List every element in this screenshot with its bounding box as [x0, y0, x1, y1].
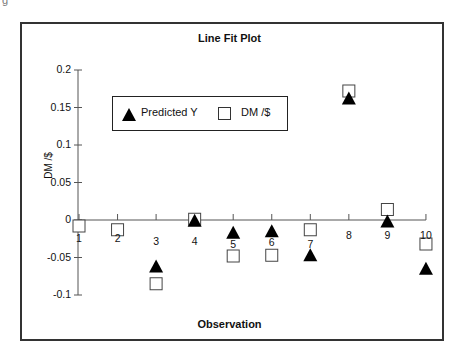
x-tick-label: 6	[262, 236, 282, 248]
square-marker	[304, 224, 316, 236]
square-marker-icon	[217, 106, 233, 122]
legend-label-predicted: Predicted Y	[141, 106, 198, 118]
x-tick-label: 2	[108, 232, 128, 244]
y-tick-label: -0.05	[31, 251, 71, 263]
y-tick-label: 0.1	[31, 138, 71, 150]
triangle-marker	[226, 226, 240, 239]
x-tick-label: 1	[69, 232, 89, 244]
square-marker	[150, 278, 162, 290]
y-tick-label: 0	[31, 213, 71, 225]
x-tick-label: 3	[146, 235, 166, 247]
x-tick-label: 5	[223, 238, 243, 250]
square-marker	[73, 220, 85, 232]
triangle-marker	[303, 248, 317, 261]
x-tick-label: 9	[377, 229, 397, 241]
square-marker	[381, 204, 393, 216]
triangle-marker	[419, 262, 433, 275]
x-tick-label: 4	[185, 235, 205, 247]
x-tick-label: 8	[339, 229, 359, 241]
square-marker	[227, 250, 239, 262]
chart-legend: Predicted Y DM /$	[112, 96, 288, 131]
x-tick-label: 10	[416, 229, 436, 241]
y-tick-label: 0.05	[31, 176, 71, 188]
triangle-marker	[149, 260, 163, 273]
y-tick-label: 0.2	[31, 63, 71, 75]
square-marker	[266, 249, 278, 261]
x-tick-label: 7	[300, 238, 320, 250]
y-tick-label: 0.15	[31, 101, 71, 113]
legend-label-actual: DM /$	[241, 106, 270, 118]
y-tick-label: -0.1	[31, 288, 71, 300]
triangle-marker-icon	[121, 106, 137, 122]
triangle-marker	[380, 215, 394, 228]
